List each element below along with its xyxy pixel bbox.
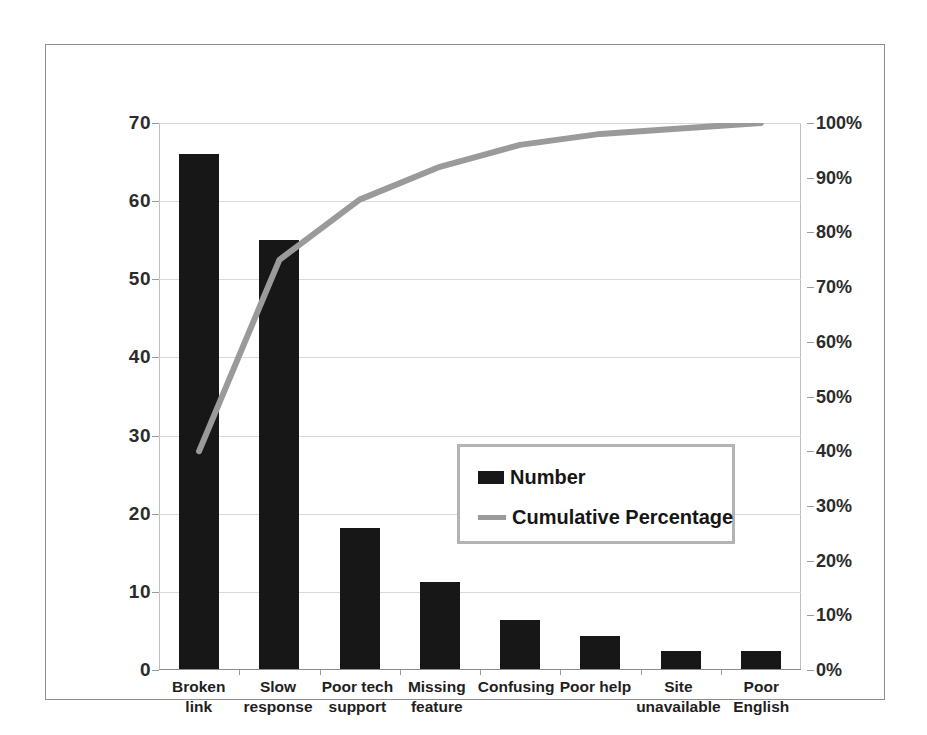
x-axis-tick-mark bbox=[400, 670, 401, 675]
gridline bbox=[159, 436, 801, 437]
x-axis-tick-mark bbox=[560, 670, 561, 675]
x-axis-category-label: Poor help bbox=[556, 677, 635, 735]
x-axis-category-label-line: Slow bbox=[239, 677, 316, 697]
bar bbox=[580, 636, 620, 670]
y-axis-right-tick-mark bbox=[807, 506, 814, 507]
x-axis-category-label-line: Confusing bbox=[477, 677, 554, 697]
x-axis-category-labels: Broken linkSlowresponsePoor techsupportM… bbox=[159, 677, 801, 735]
y-axis-right-tick-label: 30% bbox=[816, 495, 896, 516]
y-axis-right-tick-mark bbox=[807, 397, 814, 398]
x-axis-tick-mark bbox=[480, 670, 481, 675]
legend-label-number: Number bbox=[510, 466, 586, 489]
y-axis-left-tick-mark bbox=[152, 201, 159, 202]
y-axis-left-tick-label: 70 bbox=[91, 112, 151, 134]
y-axis-left-tick-mark bbox=[152, 123, 159, 124]
y-axis-right-tick-label: 70% bbox=[816, 277, 896, 298]
plot-right-border bbox=[800, 123, 801, 670]
legend-bar-swatch-icon bbox=[478, 471, 504, 484]
legend-item-number: Number bbox=[478, 457, 732, 497]
y-axis-left-tick-label: 10 bbox=[91, 581, 151, 603]
y-axis-right-tick-label: 60% bbox=[816, 331, 896, 352]
x-axis-category-label-line: Poor help bbox=[557, 677, 634, 697]
y-axis-right-tick-label: 0% bbox=[816, 660, 896, 681]
y-axis-right-tick-mark bbox=[807, 123, 814, 124]
bar bbox=[741, 651, 781, 670]
bar bbox=[340, 528, 380, 670]
bar bbox=[500, 620, 540, 670]
y-axis-left-tick-label: 50 bbox=[91, 268, 151, 290]
y-axis-right-tick-label: 10% bbox=[816, 605, 896, 626]
x-axis-category-label: Confusing bbox=[476, 677, 555, 735]
gridline bbox=[159, 123, 801, 124]
x-axis-category-label-line: Missing bbox=[398, 677, 475, 697]
y-axis-right: 0%10%20%30%40%50%60%70%80%90%100% bbox=[816, 123, 906, 670]
x-axis-tick-mark bbox=[239, 670, 240, 675]
y-axis-right-tick-mark bbox=[807, 232, 814, 233]
gridline bbox=[159, 357, 801, 358]
legend-item-cumulative-percentage: Cumulative Percentage bbox=[478, 497, 732, 537]
y-axis-right-tick-mark bbox=[807, 561, 814, 562]
y-axis-left-tick-label: 60 bbox=[91, 190, 151, 212]
y-axis-left-tick-mark bbox=[152, 279, 159, 280]
y-axis-right-tick-label: 50% bbox=[816, 386, 896, 407]
y-axis-right-tick-label: 100% bbox=[816, 113, 896, 134]
legend-label-cumulative-percentage: Cumulative Percentage bbox=[512, 506, 733, 529]
y-axis-left-tick-label: 20 bbox=[91, 503, 151, 525]
x-axis-category-label-line: response bbox=[239, 697, 316, 717]
gridline bbox=[159, 201, 801, 202]
x-axis-tick-mark bbox=[320, 670, 321, 675]
gridline bbox=[159, 279, 801, 280]
y-axis-right-tick-label: 80% bbox=[816, 222, 896, 243]
y-axis-right-tick-label: 20% bbox=[816, 550, 896, 571]
y-axis-left-tick-mark bbox=[152, 436, 159, 437]
y-axis-left-tick-label: 30 bbox=[91, 425, 151, 447]
y-axis-left-tick-mark bbox=[152, 592, 159, 593]
gridline bbox=[159, 592, 801, 593]
bar bbox=[661, 651, 701, 670]
y-axis-right-tick-label: 90% bbox=[816, 167, 896, 188]
x-axis-category-label: Poor English bbox=[722, 677, 801, 735]
pareto-chart-frame: 010203040506070 0%10%20%30%40%50%60%70%8… bbox=[45, 44, 885, 700]
x-axis-category-label-line: Poor English bbox=[723, 677, 800, 717]
x-axis-category-label-line: unavailable bbox=[636, 697, 720, 717]
bar bbox=[420, 582, 460, 670]
bar bbox=[259, 240, 299, 670]
y-axis-left-tick-label: 40 bbox=[91, 346, 151, 368]
x-axis-tick-mark bbox=[641, 670, 642, 675]
x-axis-category-label-line: Broken link bbox=[160, 677, 237, 717]
x-axis-category-label-line: feature bbox=[398, 697, 475, 717]
legend-line-swatch-icon bbox=[478, 515, 506, 520]
x-axis-category-label-line: support bbox=[319, 697, 396, 717]
y-axis-left-tick-mark bbox=[152, 514, 159, 515]
y-axis-left-tick-label: 0 bbox=[91, 659, 151, 681]
y-axis-left-tick-mark bbox=[152, 670, 159, 671]
x-axis-category-label-line: Poor tech bbox=[319, 677, 396, 697]
y-axis-right-tick-mark bbox=[807, 615, 814, 616]
x-axis-tick-mark bbox=[721, 670, 722, 675]
bar bbox=[179, 154, 219, 670]
chart-legend: Number Cumulative Percentage bbox=[457, 444, 735, 544]
x-axis-category-label: Broken link bbox=[159, 677, 238, 735]
y-axis-left: 010203040506070 bbox=[89, 123, 151, 670]
x-axis-category-label: Missingfeature bbox=[397, 677, 476, 735]
x-axis-baseline bbox=[159, 669, 801, 670]
plot-area bbox=[159, 123, 801, 670]
plot-left-border bbox=[159, 123, 160, 670]
y-axis-right-tick-mark bbox=[807, 451, 814, 452]
y-axis-right-tick-mark bbox=[807, 342, 814, 343]
y-axis-right-tick-mark bbox=[807, 670, 814, 671]
y-axis-right-tick-mark bbox=[807, 287, 814, 288]
x-axis-category-label: Siteunavailable bbox=[635, 677, 721, 735]
x-axis-category-label: Slowresponse bbox=[238, 677, 317, 735]
y-axis-right-tick-mark bbox=[807, 178, 814, 179]
x-axis-category-label: Poor techsupport bbox=[318, 677, 397, 735]
y-axis-right-tick-label: 40% bbox=[816, 441, 896, 462]
x-axis-category-label-line: Site bbox=[636, 677, 720, 697]
y-axis-left-tick-mark bbox=[152, 357, 159, 358]
